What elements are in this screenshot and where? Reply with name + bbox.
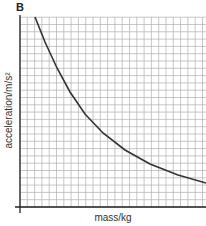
grid-lines — [20, 17, 206, 207]
chart-plot — [0, 0, 206, 226]
